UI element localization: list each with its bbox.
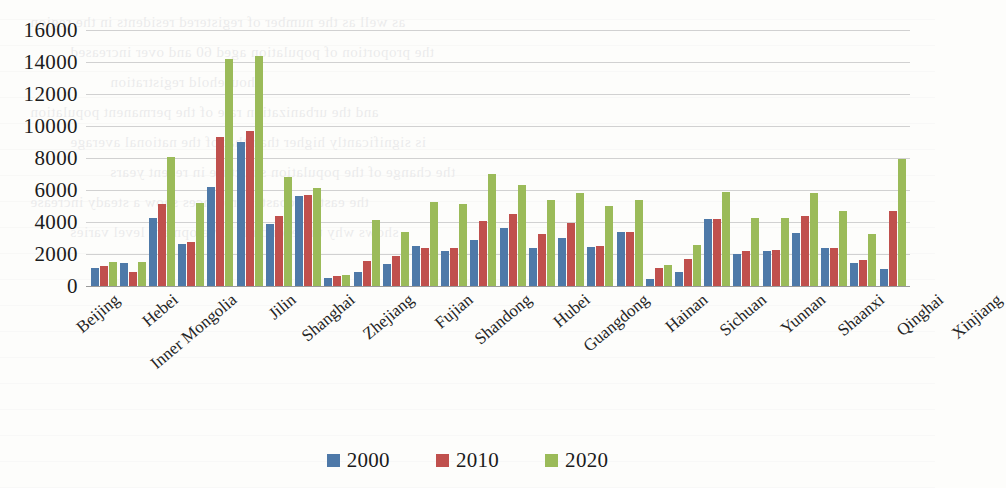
- bar-2000-26: [850, 263, 858, 286]
- bar-2000-20: [675, 272, 683, 286]
- x-axis-label-qinghai: Qinghai: [893, 290, 948, 341]
- bar-group: [235, 30, 264, 286]
- bar-2010-16: [567, 223, 575, 286]
- bar-group: [177, 30, 206, 286]
- x-axis-label-zhejiang: Zhejiang: [359, 290, 418, 344]
- bar-2020-0: [109, 262, 117, 286]
- bar-2020-24: [810, 193, 818, 286]
- bar-2000-16: [558, 238, 566, 286]
- chart-legend: 200020102020: [0, 448, 935, 473]
- bar-2000-2: [149, 218, 157, 286]
- bar-2000-12: [441, 251, 449, 286]
- bar-2020-13: [488, 174, 496, 286]
- bar-2000-27: [880, 269, 888, 286]
- y-tick-label-2000: 2000: [34, 242, 78, 267]
- bar-2000-19: [646, 279, 654, 286]
- bar-2010-4: [216, 137, 224, 286]
- bar-2020-11: [430, 202, 438, 286]
- bar-2000-25: [821, 248, 829, 286]
- bar-group: [878, 30, 907, 286]
- bar-2010-18: [626, 232, 634, 286]
- bar-group: [206, 30, 235, 286]
- bar-2000-15: [529, 248, 537, 286]
- bar-2010-14: [509, 214, 517, 286]
- bar-group: [440, 30, 469, 286]
- gridline-0: [86, 286, 910, 287]
- bar-group: [557, 30, 586, 286]
- bar-2020-22: [751, 218, 759, 286]
- bar-2020-4: [225, 59, 233, 286]
- bar-2020-15: [547, 200, 555, 286]
- bar-group: [732, 30, 761, 286]
- bar-2010-3: [187, 242, 195, 286]
- bar-2000-22: [733, 254, 741, 286]
- bar-group: [615, 30, 644, 286]
- legend-item-2000[interactable]: 2000: [327, 448, 390, 473]
- bar-2000-8: [324, 278, 332, 286]
- bar-2020-19: [664, 265, 672, 286]
- bar-2020-26: [868, 234, 876, 286]
- bar-2000-13: [470, 240, 478, 286]
- bar-2020-21: [722, 192, 730, 286]
- bar-2000-4: [207, 187, 215, 286]
- bar-group: [673, 30, 702, 286]
- bar-group: [323, 30, 352, 286]
- y-tick-label-12000: 12000: [24, 82, 79, 107]
- y-tick-label-10000: 10000: [24, 114, 79, 139]
- y-tick-label-4000: 4000: [34, 210, 78, 235]
- y-tick-label-6000: 6000: [34, 178, 78, 203]
- bar-2020-17: [605, 206, 613, 286]
- bar-2010-11: [421, 248, 429, 286]
- bar-2020-7: [313, 188, 321, 286]
- bar-2000-21: [704, 219, 712, 286]
- bar-2000-3: [178, 244, 186, 286]
- bar-2020-2: [167, 157, 175, 286]
- bar-2020-25: [839, 211, 847, 286]
- bar-2010-10: [392, 256, 400, 286]
- x-axis-label-shanghai: Shanghai: [298, 290, 359, 346]
- x-axis-label-fujian: Fujian: [431, 290, 477, 333]
- bar-2010-22: [742, 251, 750, 286]
- bar-2010-5: [246, 131, 254, 286]
- bar-2010-27: [889, 211, 897, 286]
- legend-item-2010[interactable]: 2010: [436, 448, 499, 473]
- x-axis-label-beijing: Beijing: [72, 290, 123, 338]
- bar-2010-13: [479, 221, 487, 286]
- bar-2010-23: [772, 250, 780, 286]
- bar-group: [147, 30, 176, 286]
- bar-2000-18: [617, 232, 625, 286]
- bar-2010-21: [713, 219, 721, 286]
- bar-2000-23: [763, 251, 771, 286]
- x-axis-label-yunnan: Yunnan: [777, 290, 830, 339]
- bar-2010-20: [684, 259, 692, 286]
- bar-2000-7: [295, 196, 303, 286]
- bar-2020-14: [518, 185, 526, 286]
- bar-2010-15: [538, 234, 546, 286]
- bar-2020-8: [342, 275, 350, 286]
- bar-2010-25: [830, 248, 838, 286]
- bar-2000-0: [91, 268, 99, 286]
- legend-label-2000: 2000: [347, 448, 390, 473]
- bar-group: [264, 30, 293, 286]
- legend-item-2020[interactable]: 2020: [545, 448, 608, 473]
- bar-2020-12: [459, 204, 467, 286]
- legend-label-2020: 2020: [565, 448, 608, 473]
- legend-swatch-2020: [545, 454, 558, 467]
- bar-2020-20: [693, 245, 701, 286]
- bar-group: [469, 30, 498, 286]
- bar-group: [527, 30, 556, 286]
- bar-2010-2: [158, 204, 166, 286]
- bar-group: [294, 30, 323, 286]
- bar-2020-16: [576, 193, 584, 286]
- plot-area: [86, 30, 910, 286]
- bar-2010-17: [596, 246, 604, 286]
- bar-2010-12: [450, 248, 458, 286]
- bar-group: [644, 30, 673, 286]
- bar-2000-6: [266, 224, 274, 286]
- bar-group: [849, 30, 878, 286]
- bar-2020-1: [138, 262, 146, 286]
- bar-groups: [86, 30, 910, 286]
- bar-group: [89, 30, 118, 286]
- y-tick-label-0: 0: [67, 274, 78, 299]
